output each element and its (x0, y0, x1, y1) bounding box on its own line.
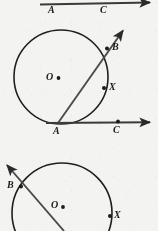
point-B-dot (105, 47, 109, 51)
secant-ray-bottom-through-B (7, 165, 64, 231)
circle-O-bottom (12, 163, 112, 231)
label-X-bottom: X (114, 210, 121, 220)
point-C-dot (116, 120, 120, 124)
label-C-top: C (100, 5, 107, 15)
top-ray-AC (40, 3, 150, 5)
panel-middle (14, 30, 150, 124)
point-O-dot-bottom (61, 205, 65, 209)
label-O-bottom: O (51, 200, 58, 210)
label-A-top: A (48, 5, 55, 15)
label-B: B (112, 42, 119, 52)
label-B-bottom: B (7, 180, 14, 190)
point-X-dot (102, 86, 106, 90)
panel-bottom (7, 163, 112, 231)
point-X-dot-bottom (108, 214, 112, 218)
label-C: C (113, 125, 120, 135)
circle-O (14, 30, 108, 124)
ray-A-to-C (46, 122, 150, 123)
label-X: X (109, 82, 116, 92)
point-O-dot (57, 76, 61, 80)
point-B-dot-bottom (19, 185, 23, 189)
figure-page: A C O B X A C O B X (0, 0, 158, 231)
panel-top (40, 3, 150, 5)
geometry-canvas (0, 0, 158, 231)
label-O: O (46, 72, 53, 82)
label-A: A (53, 126, 60, 136)
